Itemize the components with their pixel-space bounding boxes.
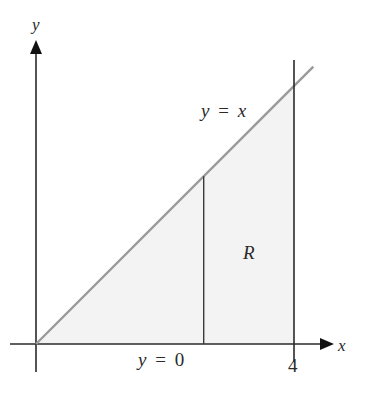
curve-label-y-equals-x: y = x (199, 100, 247, 121)
region-label-R: R (242, 242, 255, 263)
y-axis-label: y (30, 15, 40, 34)
curve-label-eq: = (155, 349, 166, 370)
curve-label-var: y (136, 349, 147, 370)
y-axis-arrow-icon (30, 40, 42, 54)
curve-label-var: y (199, 100, 210, 121)
diagram-canvas: y x y = x y = 0 4 R (0, 0, 366, 401)
x-tick-label-4: 4 (288, 355, 298, 376)
x-axis-arrow-icon (320, 338, 334, 350)
curve-label-rhs: 0 (175, 349, 185, 370)
curve-label-rhs: x (237, 100, 247, 121)
x-axis-label: x (337, 336, 346, 355)
curve-label-eq: = (218, 100, 229, 121)
curve-label-y-equals-0: y = 0 (136, 349, 184, 370)
